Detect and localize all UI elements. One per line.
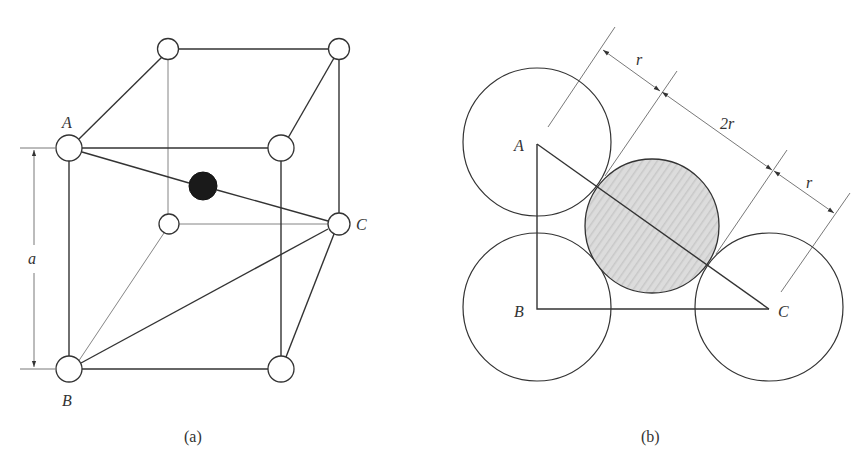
atom-bottom-front-right [268, 356, 294, 382]
top-left-edge [79, 57, 162, 139]
atom-a [56, 135, 82, 161]
label-c-point: C [356, 216, 367, 233]
label-r-left: r [636, 51, 643, 68]
label-b-point-b: B [514, 303, 524, 320]
label-2r: 2r [720, 115, 735, 132]
label-dimension-a: a [28, 250, 36, 267]
back-bottom-left-diagonal-edge [78, 233, 164, 362]
atom-c [328, 213, 350, 235]
label-a-point-b: A [513, 137, 524, 154]
extension-line-4 [781, 193, 850, 292]
label-r-right: r [806, 174, 813, 191]
panel-a-unit-cell: A C B a (a) [20, 39, 367, 447]
top-right-edge [288, 58, 334, 138]
atom-top-back-left [158, 39, 179, 60]
panel-b-cross-section: r 2r r A B C (b) [463, 27, 850, 446]
label-a-point: A [61, 114, 72, 131]
diagonal-a-to-interstitial [82, 152, 189, 183]
dimension-arrow-2r [662, 92, 772, 170]
atom-top-back-right [329, 39, 350, 60]
atom-bottom-back-left [159, 214, 179, 234]
dimension-arrow-r-left [603, 50, 660, 91]
bottom-right-edge [286, 234, 334, 357]
atom-circle-c [695, 233, 843, 381]
label-c-point-b: C [778, 303, 789, 320]
label-b-point: B [62, 392, 72, 409]
atom-top-front-right [268, 135, 294, 161]
extension-line-3 [716, 150, 787, 254]
atom-b [56, 356, 82, 382]
diagonal-interstitial-to-c [217, 190, 328, 221]
interstitial-atom-dark [189, 172, 217, 200]
dimension-arrow-r-right [774, 171, 834, 213]
caption-panel-b: (b) [641, 428, 660, 446]
caption-panel-a: (a) [184, 428, 202, 446]
figure-canvas: A C B a (a) r 2r r A B C (b) [0, 0, 864, 459]
